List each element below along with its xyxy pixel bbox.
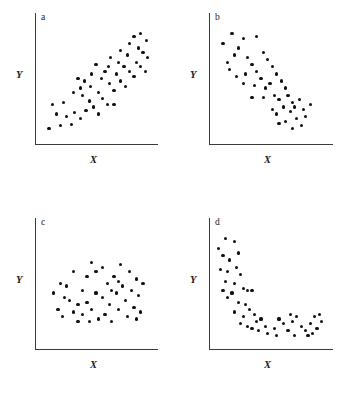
data-point — [90, 261, 93, 264]
data-point — [119, 49, 122, 52]
panel-a-y-axis — [35, 13, 36, 145]
data-point — [92, 105, 95, 108]
data-point — [306, 334, 309, 337]
data-point — [94, 63, 97, 66]
data-point — [242, 37, 245, 40]
data-point — [76, 303, 79, 306]
data-point — [108, 303, 111, 306]
panel-c-x-axis — [35, 349, 158, 350]
data-point — [115, 72, 118, 75]
data-point — [97, 317, 100, 320]
data-point — [52, 291, 55, 294]
panel-c-x-label: X — [90, 360, 97, 371]
data-point — [84, 109, 87, 112]
data-point — [88, 320, 91, 323]
data-point — [59, 282, 62, 285]
data-point — [139, 310, 142, 313]
data-point — [246, 289, 249, 292]
data-point — [259, 317, 262, 320]
data-point — [242, 82, 245, 85]
data-point — [277, 122, 280, 125]
data-point — [100, 77, 103, 80]
data-point — [259, 77, 262, 80]
data-point — [130, 289, 133, 292]
data-point — [282, 322, 285, 325]
data-point — [320, 320, 323, 323]
data-point — [237, 251, 240, 254]
data-point — [128, 70, 131, 73]
data-point — [293, 105, 296, 108]
data-point — [51, 103, 54, 106]
data-point — [81, 289, 84, 292]
data-point — [106, 282, 109, 285]
panel-a: a Y X — [0, 0, 173, 196]
data-point — [275, 72, 278, 75]
data-point — [250, 327, 253, 330]
panel-b-y-label: Y — [190, 70, 196, 81]
data-point — [244, 72, 247, 75]
data-point — [144, 70, 147, 73]
data-point — [117, 61, 120, 64]
panel-b-y-axis — [209, 13, 210, 145]
panel-b-x-label: X — [264, 155, 271, 166]
data-point — [137, 46, 140, 49]
data-point — [271, 65, 274, 68]
panel-d-plot-area — [214, 227, 326, 345]
data-point — [233, 240, 236, 243]
data-point — [237, 46, 240, 49]
data-point — [128, 270, 131, 273]
data-point — [89, 85, 92, 88]
data-point — [135, 61, 138, 64]
data-point — [119, 263, 122, 266]
data-point — [81, 94, 84, 97]
data-point — [226, 296, 229, 299]
data-point — [108, 82, 111, 85]
data-point — [56, 308, 59, 311]
data-point — [242, 315, 245, 318]
data-point — [76, 77, 79, 80]
data-point — [277, 317, 280, 320]
data-point — [132, 306, 135, 309]
data-point — [253, 313, 256, 316]
data-point — [233, 53, 236, 56]
data-point — [228, 258, 231, 261]
data-point — [88, 99, 91, 102]
data-point — [81, 313, 84, 316]
data-point — [224, 280, 227, 283]
panel-d-x-label: X — [264, 360, 271, 371]
data-point — [255, 35, 258, 38]
panel-d-x-axis — [209, 349, 333, 350]
data-point — [90, 72, 93, 75]
data-point — [106, 103, 109, 106]
data-point — [230, 32, 233, 35]
data-point — [253, 84, 256, 87]
data-point — [237, 301, 240, 304]
panel-c: c Y X — [0, 196, 173, 393]
data-point — [302, 108, 305, 111]
panel-d-y-label: Y — [190, 275, 196, 286]
data-point — [72, 91, 75, 94]
data-point — [135, 277, 138, 280]
data-point — [103, 313, 106, 316]
data-point — [300, 325, 303, 328]
data-point — [70, 123, 73, 126]
data-point — [226, 270, 229, 273]
data-point — [62, 101, 65, 104]
panel-d: d Y X — [173, 196, 347, 393]
data-point — [273, 94, 276, 97]
data-point — [94, 291, 97, 294]
data-point — [255, 70, 258, 73]
panel-b-plot-area — [214, 22, 326, 140]
data-point — [239, 273, 242, 276]
data-point — [304, 329, 307, 332]
data-point — [221, 289, 224, 292]
data-point — [289, 313, 292, 316]
data-point — [286, 94, 289, 97]
data-point — [311, 332, 314, 335]
data-point — [132, 35, 135, 38]
data-point — [90, 308, 93, 311]
data-point — [275, 334, 278, 337]
data-point — [318, 313, 321, 316]
data-point — [255, 320, 258, 323]
data-point — [126, 53, 129, 56]
